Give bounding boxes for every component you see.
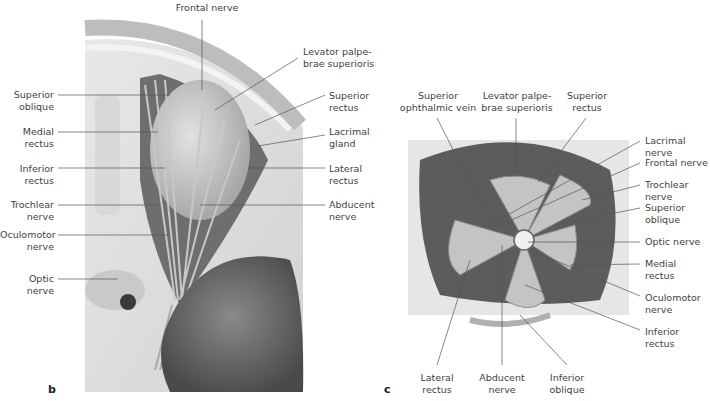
panel-letter-c: c [384,383,391,396]
panel-b-illustration [85,27,303,392]
label-c-levator-palpebrae-superioris: Levator palpe- brae superioris [474,90,560,114]
label-b-frontal-nerve: Frontal nerve [172,2,242,14]
label-c-abducent-nerve: Abducent nerve [474,372,530,396]
label-c-superior-ophthalmic-vein: Superior ophthalmic vein [393,90,483,114]
label-c-superior-oblique: Superior oblique [645,202,685,226]
label-b-levator-palpebrae-superioris: Levator palpe- brae superioris [303,46,374,70]
label-b-optic-nerve: Optic nerve [0,273,54,297]
label-c-inferior-oblique: Inferior oblique [542,372,592,396]
label-c-trochlear-nerve: Trochlear nerve [645,179,710,203]
label-b-lacrimal-gland: Lacrimal gland [329,126,370,150]
panel-letter-b: b [48,383,56,396]
label-c-oculomotor-nerve: Oculomotor nerve [645,292,701,316]
label-b-trochlear-nerve: Trochlear nerve [0,199,54,223]
panel-c-illustration [408,140,629,324]
label-b-superior-oblique: Superior oblique [0,89,54,113]
label-b-abducent-nerve: Abducent nerve [329,199,374,223]
label-b-lateral-rectus: Lateral rectus [329,163,362,187]
label-b-oculomotor-nerve: Oculomotor nerve [0,229,54,253]
label-b-inferior-rectus: Inferior rectus [0,163,54,187]
label-c-superior-rectus: Superior rectus [562,90,612,114]
label-c-frontal-nerve: Frontal nerve [645,157,708,169]
label-c-lateral-rectus: Lateral rectus [412,372,462,396]
label-c-inferior-rectus: Inferior rectus [645,326,679,350]
label-c-lacrimal-nerve: Lacrimal nerve [645,135,710,159]
label-c-optic-nerve: Optic nerve [645,236,700,248]
label-b-medial-rectus: Medial rectus [0,126,54,150]
label-b-superior-rectus: Superior rectus [329,90,369,114]
label-c-medial-rectus: Medial rectus [645,258,676,282]
